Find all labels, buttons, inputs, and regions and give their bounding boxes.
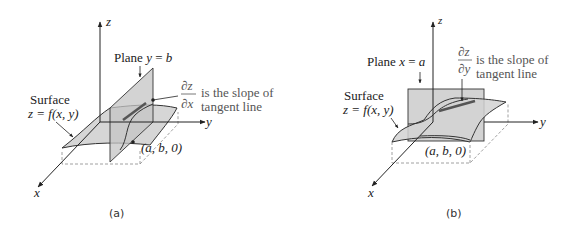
tangent-point-a [151,98,155,102]
surface-label-line2-b: z = f(x, y) [342,102,394,117]
point-label-a: (a, b, 0) [141,140,182,155]
plane-label-val-b: a [419,54,426,69]
derivative-denominator-b: ∂y [458,61,470,76]
panel-b: z y x Plane x = a Surface z = f(x, y) ∂z… [342,14,549,220]
slope-text-line1-b: is the slope of [476,52,549,67]
surface-label-line1-a: Surface [30,92,70,107]
plane-label-eq-b: = [405,54,419,69]
x-axis-label-b: x [367,185,374,200]
plane-label-eq-a: = [152,50,166,65]
panel-a: z y x Plane y = b Surface z = f(x, y) ∂z… [27,14,274,220]
caption-a: (a) [109,207,124,220]
y-axis-label-b: y [538,114,546,129]
plane-label-prefix-a: Plane [114,50,146,65]
z-axis-label-b: z [437,14,443,26]
point-label-b: (a, b, 0) [425,143,466,158]
surface-pointer-b [391,118,398,128]
z-axis-label-a: z [105,14,111,29]
surface-label-line2-a: z = f(x, y) [27,106,79,121]
slope-text-line2-b: tangent line [476,66,537,81]
x-axis-a [38,122,100,187]
slope-text-line2-a: tangent line [201,99,262,114]
point-abo-a [131,140,135,144]
surface-pointer-a [56,122,73,137]
slope-text-line1-a: is the slope of [201,85,274,100]
plane-label-b: Plane x = a [367,54,426,69]
plane-label-a: Plane y = b [114,50,173,65]
figure-canvas: z y x Plane y = b Surface z = f(x, y) ∂z… [0,0,579,230]
y-axis-label-a: y [204,114,212,129]
x-axis-label-a: x [33,185,40,200]
derivative-numerator-a: ∂z [181,78,192,93]
plane-label-prefix-b: Plane [367,54,399,69]
derivative-denominator-a: ∂x [181,96,193,111]
surface-label-line1-b: Surface [344,88,384,103]
derivative-pointer-a [153,96,178,100]
plane-label-val-a: b [166,50,173,65]
caption-b: (b) [446,207,462,220]
derivative-numerator-b: ∂z [458,44,469,59]
